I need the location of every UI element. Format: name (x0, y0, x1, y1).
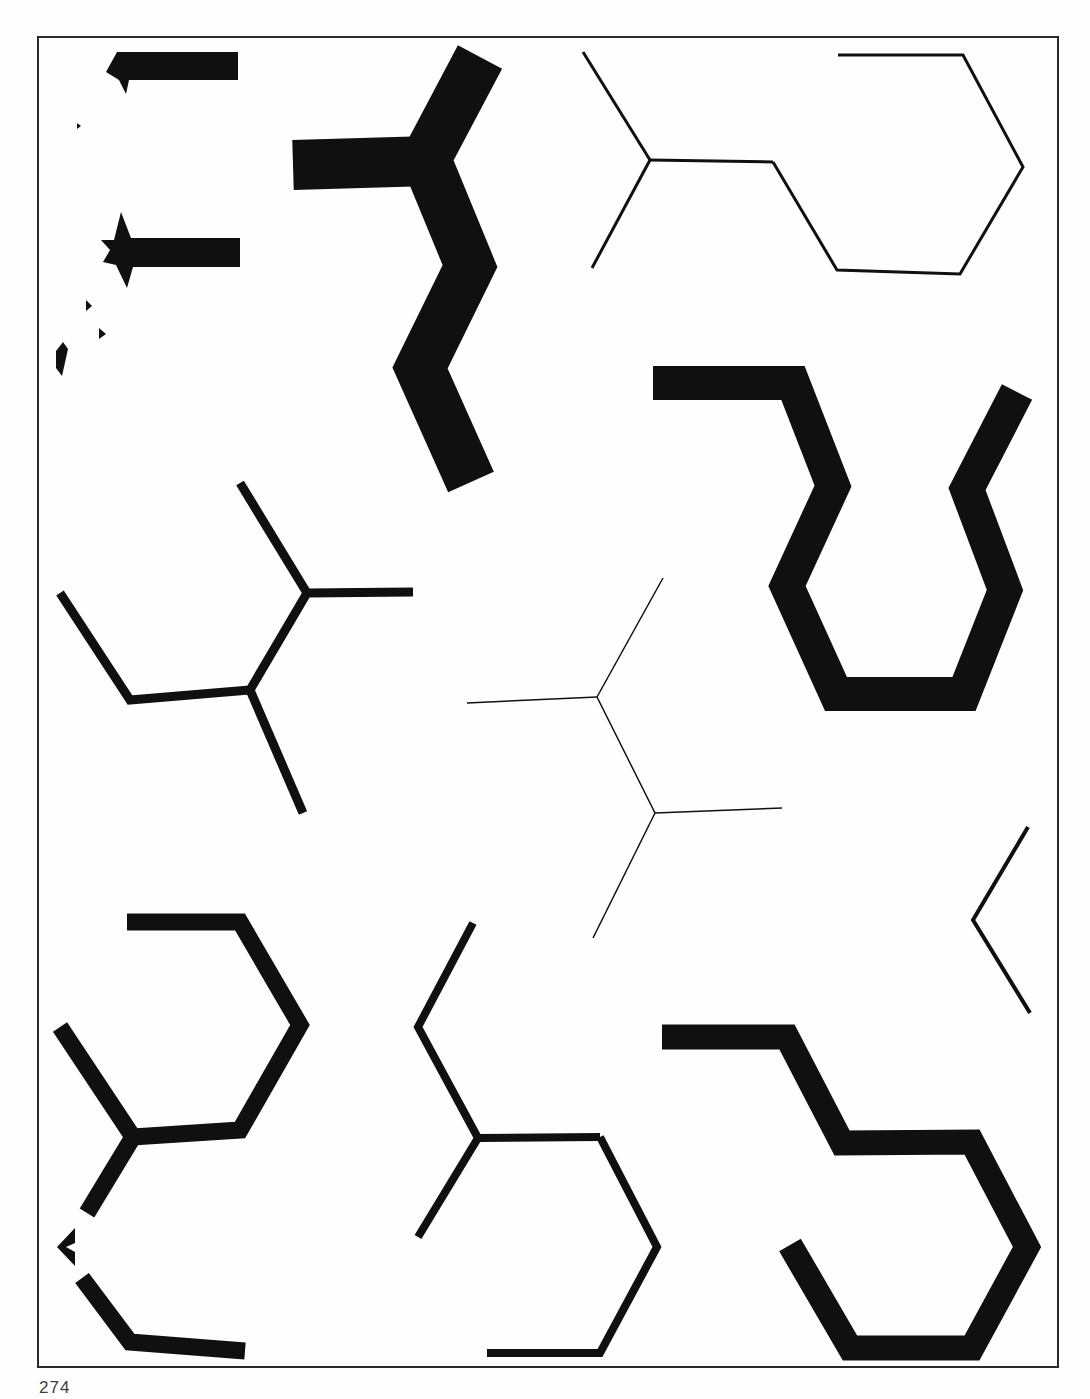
figure-midright-cup (653, 383, 1017, 694)
figure-bottommid-arm (478, 1137, 600, 1138)
figure-center-thin-mid (597, 697, 655, 813)
figure-center-thin-lower (593, 813, 655, 938)
figure-bottomright-hook (662, 1037, 1027, 1348)
artwork-canvas (0, 0, 1090, 1399)
figure-topleft-speck-2 (86, 300, 92, 311)
figure-topmid-zigzag-arm (293, 161, 430, 165)
figure-topleft-bar-fragment (106, 52, 238, 94)
figure-topleft-star-bar (101, 212, 240, 288)
hexagon-figures (56, 52, 1030, 1353)
figure-midleft-y-upper (240, 483, 307, 593)
figure-topmid-zigzag-spine (420, 57, 480, 482)
figure-center-thin-right-arm (655, 808, 782, 813)
figure-bottomleft-foot (82, 1278, 245, 1351)
figure-bottommid-hexagon (487, 1137, 657, 1353)
figure-center-thin-upper (597, 578, 663, 697)
figure-topright-hexagon (773, 55, 1023, 274)
figure-topright-y-arm (650, 160, 773, 162)
figure-midleft-chain (60, 593, 307, 700)
figure-bottomleft-hexagon (60, 922, 300, 1137)
figure-bottomleft-branch (87, 1137, 133, 1213)
figure-midleft-branch (250, 690, 303, 813)
figure-bottomleft-chevron (57, 1228, 75, 1266)
figure-topleft-blob (56, 342, 68, 376)
figure-bottommid-branch (418, 1138, 478, 1237)
figure-topleft-speck-3 (99, 328, 106, 339)
figure-topleft-speck-1 (77, 123, 81, 129)
figure-center-thin-left-arm (467, 697, 597, 703)
figure-bottommid-chain (418, 923, 478, 1138)
figure-right-chevron (973, 827, 1030, 1013)
figure-midleft-y-arm (307, 592, 413, 593)
figure-topright-y-lower (592, 160, 650, 268)
book-page: 274 (0, 0, 1090, 1399)
figure-topright-y-upper (583, 52, 650, 160)
page-number: 274 (39, 1378, 70, 1398)
